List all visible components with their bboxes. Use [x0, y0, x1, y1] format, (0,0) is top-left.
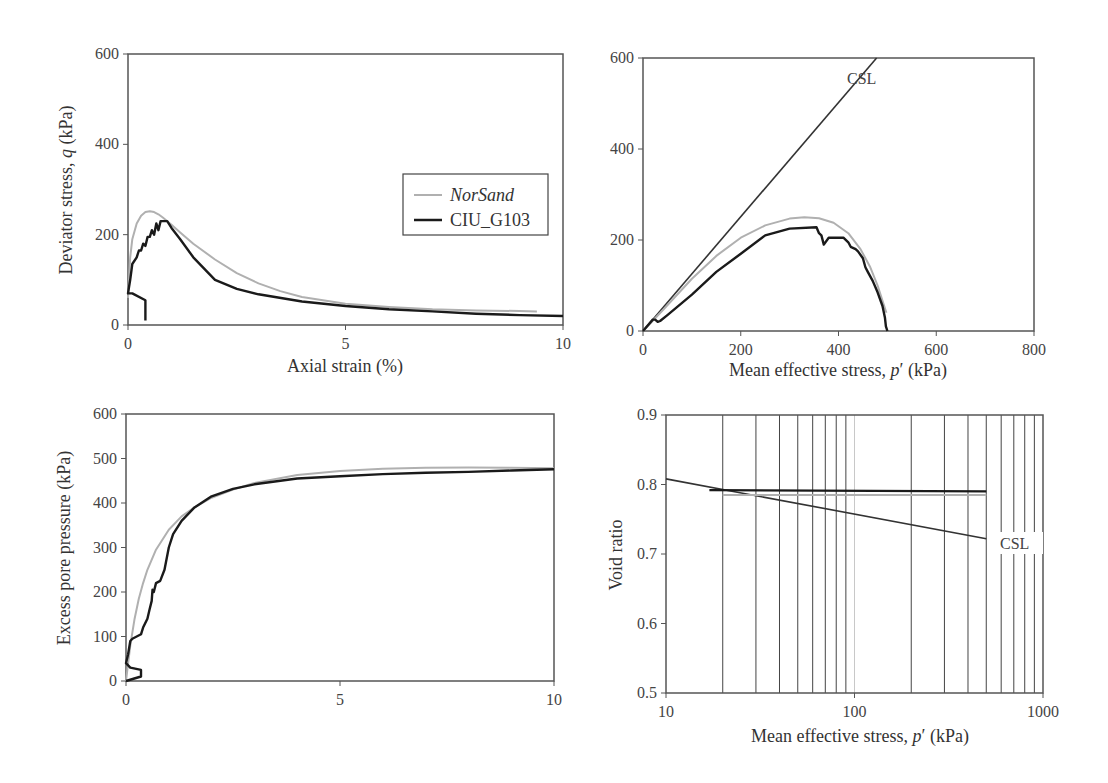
y-tick-label: 0 — [626, 322, 634, 339]
x-axis-label: Mean effective stress, p′ (kPa) — [729, 360, 947, 381]
x-tick-label: 5 — [342, 335, 350, 352]
y-tick-label: 200 — [93, 583, 117, 600]
x-tick-label: 10 — [546, 691, 562, 708]
series-csl — [643, 58, 877, 331]
y-axis-label: Excess pore pressure (kPa) — [54, 451, 75, 645]
panel-stress-path: 02004006008000200400600 Mean effective s… — [610, 49, 1046, 381]
series-ciu-g103 — [643, 227, 887, 331]
y-tick-label: 600 — [95, 45, 119, 62]
y-tick-label: 600 — [610, 49, 634, 66]
series-norsand — [126, 467, 554, 681]
panel-pore-pressure: 05100100200300400500600 Excess pore pres… — [54, 405, 562, 708]
y-tick-label: 0.9 — [637, 406, 657, 423]
y-tick-label: 0.8 — [637, 476, 657, 493]
series-ciu-g103 — [126, 469, 554, 681]
y-tick-label: 400 — [93, 494, 117, 511]
series-ciu-g103 — [709, 490, 986, 491]
legend-label-norsand: NorSand — [449, 185, 515, 205]
x-tick-label: 0 — [639, 341, 647, 358]
y-tick-label: 0.6 — [637, 615, 657, 632]
panel-q-vs-strain: 05100200400600 Axial strain (%) Deviator… — [56, 45, 571, 377]
x-tick-label: 1000 — [1027, 703, 1059, 720]
y-axis-label: Deviator stress, q (kPa) — [56, 106, 77, 275]
csl-annotation: CSL — [1000, 535, 1029, 552]
x-axis-label: Axial strain (%) — [287, 356, 403, 377]
y-tick-label: 400 — [610, 140, 634, 157]
y-tick-label: 0 — [109, 672, 117, 689]
y-tick-label: 0 — [111, 316, 119, 333]
plot-frame — [643, 58, 1034, 331]
x-tick-label: 0 — [122, 691, 130, 708]
y-tick-label: 200 — [95, 226, 119, 243]
y-tick-label: 600 — [93, 405, 117, 422]
x-tick-label: 10 — [658, 703, 674, 720]
y-axis-label: Void ratio — [606, 519, 626, 590]
x-tick-label: 600 — [924, 341, 948, 358]
legend-label-ciu-g103: CIU_G103 — [450, 210, 530, 230]
y-tick-label: 200 — [610, 231, 634, 248]
y-tick-label: 400 — [95, 135, 119, 152]
y-tick-label: 0.7 — [637, 545, 657, 562]
panel-void-ratio: 1010010000.50.60.70.80.9 CSL Void ratio … — [606, 406, 1059, 747]
y-tick-label: 100 — [93, 628, 117, 645]
x-tick-label: 100 — [843, 703, 867, 720]
series-csl — [666, 479, 986, 539]
x-tick-label: 0 — [124, 335, 132, 352]
y-tick-label: 500 — [93, 450, 117, 467]
figure-canvas: 05100200400600 Axial strain (%) Deviator… — [0, 0, 1108, 783]
series-ciu-g103 — [128, 221, 563, 320]
x-axis-label: Mean effective stress, p′ (kPa) — [751, 726, 969, 747]
x-tick-label: 10 — [555, 335, 571, 352]
x-tick-label: 800 — [1022, 341, 1046, 358]
x-tick-label: 400 — [827, 341, 851, 358]
csl-annotation: CSL — [847, 70, 876, 87]
legend: NorSand CIU_G103 — [403, 174, 548, 235]
plot-frame — [126, 414, 554, 681]
y-tick-label: 300 — [93, 539, 117, 556]
x-tick-label: 5 — [336, 691, 344, 708]
y-tick-label: 0.5 — [637, 684, 657, 701]
x-tick-label: 200 — [729, 341, 753, 358]
